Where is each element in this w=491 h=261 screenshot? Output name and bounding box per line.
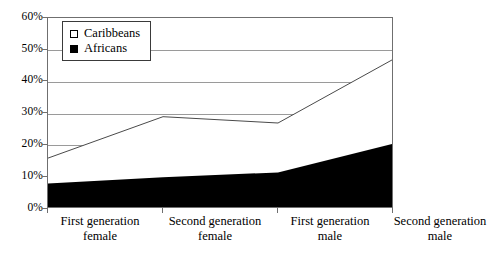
y-axis-label: 50% — [0, 43, 43, 55]
legend-item-caribbeans: Caribbeans — [70, 26, 140, 41]
legend-item-label: Caribbeans — [84, 27, 140, 40]
x-axis-tick — [162, 208, 163, 213]
legend-item-label: Africans — [84, 42, 127, 55]
legend-item-africans: Africans — [70, 41, 140, 56]
x-axis-tick — [47, 208, 48, 213]
filled-square-icon — [70, 45, 78, 53]
x-axis-labels: First generation female Second generatio… — [0, 214, 444, 258]
x-axis-category-label: Second generation male — [330, 214, 491, 244]
y-axis-label: 40% — [0, 74, 43, 86]
legend: Caribbeans Africans — [62, 21, 151, 61]
y-axis-label: 60% — [0, 11, 43, 23]
x-axis-tick — [392, 208, 393, 213]
x-axis-category-line2: male — [330, 229, 491, 244]
y-axis-label: 20% — [0, 138, 43, 150]
x-axis-category-line1: Second generation — [330, 214, 491, 229]
y-axis-label: 0% — [0, 202, 43, 214]
x-axis-tick — [277, 208, 278, 213]
y-axis-label: 30% — [0, 106, 43, 118]
y-axis-label: 10% — [0, 170, 43, 182]
hollow-square-icon — [70, 30, 78, 38]
